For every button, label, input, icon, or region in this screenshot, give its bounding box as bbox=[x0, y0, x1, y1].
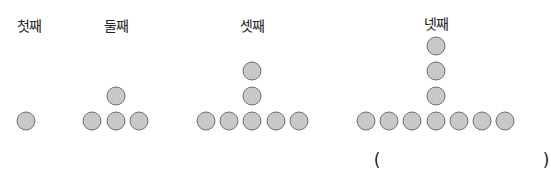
circle-dot bbox=[243, 87, 262, 106]
circle-dot bbox=[267, 112, 286, 131]
stage-label-first: 첫째 bbox=[17, 15, 42, 35]
stage-label-third: 셋째 bbox=[240, 15, 265, 35]
circle-dot bbox=[290, 112, 309, 131]
answer-close-paren: ) bbox=[543, 150, 550, 170]
circle-dot bbox=[473, 112, 492, 131]
circle-dot bbox=[496, 112, 515, 131]
circle-dot bbox=[427, 112, 446, 131]
circle-dot bbox=[107, 112, 126, 131]
circle-dot bbox=[450, 112, 469, 131]
circle-dot bbox=[243, 62, 262, 81]
circle-dot bbox=[427, 62, 446, 81]
answer-blank[interactable] bbox=[385, 150, 540, 170]
circle-dot bbox=[427, 37, 446, 56]
circle-dot bbox=[220, 112, 239, 131]
answer-open-paren: ( bbox=[374, 150, 381, 170]
circle-dot bbox=[130, 112, 149, 131]
circle-dot bbox=[403, 112, 422, 131]
circle-dot bbox=[243, 112, 262, 131]
stage-label-second: 둘째 bbox=[104, 15, 129, 35]
circle-dot bbox=[427, 87, 446, 106]
circle-dot bbox=[107, 87, 126, 106]
stage-label-fourth: 넷째 bbox=[424, 13, 449, 33]
circle-dot bbox=[83, 112, 102, 131]
circle-dot bbox=[17, 112, 36, 131]
circle-dot bbox=[380, 112, 399, 131]
circle-dot bbox=[357, 112, 376, 131]
circle-dot bbox=[197, 112, 216, 131]
